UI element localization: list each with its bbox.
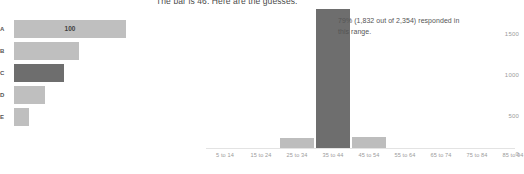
bar-value-label-a: 100 [14, 20, 126, 38]
x-axis-tick-4: 45 to 54 [358, 152, 379, 158]
left-bar-chart: A 100 B C D E [0, 0, 150, 174]
x-axis-tick-6: 65 to 74 [430, 152, 451, 158]
bar-row-d: D [0, 84, 142, 106]
hist-bar-25-to-34 [280, 138, 314, 148]
x-axis-tick-0: 5 to 14 [216, 152, 234, 158]
bar-row-b: B [0, 40, 142, 62]
bar-row-a: A 100 [0, 18, 142, 40]
bar-fill-c [14, 64, 64, 82]
bar-track [14, 106, 142, 128]
right-histogram-chart: The bar is 46. Here are the guesses. 150… [150, 0, 519, 174]
hist-bar-45-to-54 [352, 137, 386, 148]
bar-category-label: D [0, 92, 14, 98]
x-axis-tick-5: 55 to 64 [394, 152, 415, 158]
bar-category-label: C [0, 70, 14, 76]
bar-fill-b [14, 42, 79, 60]
chart-headline: The bar is 46. Here are the guesses. [156, 0, 298, 6]
bar-track [14, 84, 142, 106]
x-axis-line [206, 148, 515, 149]
bar-track [14, 40, 142, 62]
bar-fill-e [14, 108, 29, 126]
x-axis-tick-3: 35 to 44 [322, 152, 343, 158]
x-axis-tick-7: 75 to 84 [466, 152, 487, 158]
x-axis-tick-1: 15 to 24 [250, 152, 271, 158]
bar-fill-d [14, 86, 45, 104]
bar-row-c: C [0, 62, 142, 84]
x-axis-tick-2: 25 to 34 [286, 152, 307, 158]
bar-category-label: E [0, 114, 14, 120]
x-axis-tick-8: 85 to 94 [502, 152, 523, 158]
bar-category-label: B [0, 48, 14, 54]
histogram-annotation: 79% (1,832 out of 2,354) responded in th… [338, 16, 468, 38]
bar-track: 100 [14, 18, 142, 40]
bar-category-label: A [0, 26, 14, 32]
x-axis-tick-labels: 5 to 14 15 to 24 25 to 34 35 to 44 45 to… [206, 152, 511, 166]
bar-row-e: E [0, 106, 142, 128]
bar-track [14, 62, 142, 84]
